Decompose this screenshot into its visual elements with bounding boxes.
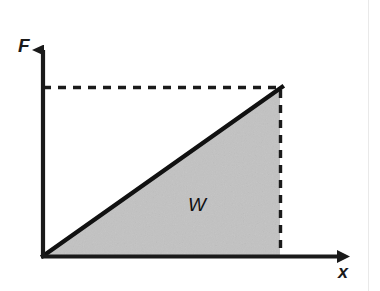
page-edge-rule xyxy=(368,0,369,291)
work-area-label: W xyxy=(188,195,206,214)
force-axis-label: F xyxy=(18,36,30,55)
displacement-axis-label: x xyxy=(338,263,348,281)
force-displacement-figure: F x W xyxy=(0,0,380,291)
figure-canvas xyxy=(0,0,380,291)
